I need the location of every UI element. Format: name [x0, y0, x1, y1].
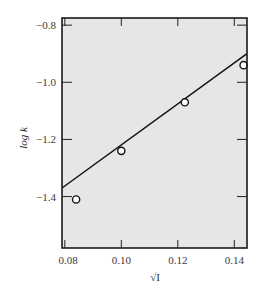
y-tick-label: −1.2: [36, 133, 56, 145]
x-tick-label: 0.14: [225, 254, 245, 266]
y-tick-label: −1.0: [36, 76, 56, 88]
data-point: [181, 99, 188, 106]
x-axis-label: √I: [150, 271, 160, 283]
chart: 0.080.100.120.14 −0.8−1.0−1.2−1.4 √I log…: [0, 0, 259, 298]
y-tick-label: −1.4: [36, 191, 56, 203]
y-tick-label: −0.8: [36, 19, 56, 31]
x-tick-label: 0.12: [168, 254, 187, 266]
x-tick-label: 0.08: [58, 254, 78, 266]
data-point: [73, 196, 80, 203]
plot-area: [62, 18, 247, 248]
data-point: [118, 147, 125, 154]
data-point: [240, 62, 247, 69]
x-tick-label: 0.10: [112, 254, 132, 266]
y-axis-label: log k: [17, 126, 29, 149]
